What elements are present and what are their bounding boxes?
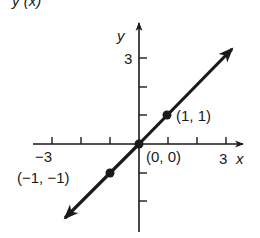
point-origin xyxy=(135,140,144,149)
point-label-1-1: (1, 1) xyxy=(176,107,211,124)
y-tick-label-3: 3 xyxy=(124,50,132,67)
graph-figure: y (x) y x 3 3 −3 (1, 1) (0, 0) (−1, −1) xyxy=(0,0,260,238)
x-axis-label: x xyxy=(235,150,244,167)
y-ticks xyxy=(139,58,147,201)
y-axis-label: y xyxy=(116,27,126,44)
point-neg1-neg1 xyxy=(106,169,115,178)
line-y-equals-x-upper xyxy=(139,49,232,144)
point-label-neg1-neg1: (−1, −1) xyxy=(17,169,70,186)
point-label-origin: (0, 0) xyxy=(146,148,181,165)
x-tick-label-neg3: −3 xyxy=(35,148,52,165)
line-y-equals-x-lower xyxy=(65,144,139,218)
clipped-title: y (x) xyxy=(11,0,41,9)
point-1-1 xyxy=(163,111,172,120)
x-tick-label-3: 3 xyxy=(219,150,227,167)
